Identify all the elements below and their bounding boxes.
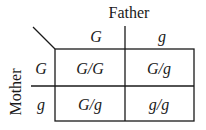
column-header-0: G: [80, 29, 112, 45]
column-header-1: g: [146, 29, 178, 45]
row-header-0: G: [30, 61, 52, 77]
father-label: Father: [104, 5, 154, 21]
cell-1-0: G/g: [62, 97, 118, 113]
cell-0-1: G/g: [131, 61, 187, 77]
cell-0-0: G/G: [62, 61, 118, 77]
row-header-1: g: [30, 97, 52, 113]
mother-label: Mother: [8, 67, 24, 117]
cell-1-1: g/g: [131, 97, 187, 113]
